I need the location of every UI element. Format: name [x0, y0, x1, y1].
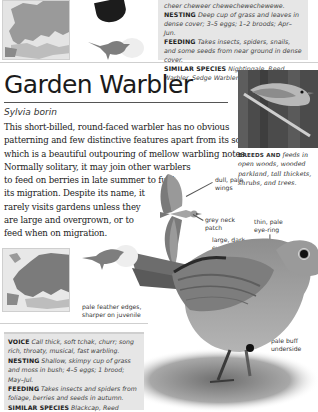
section-divider	[0, 62, 318, 63]
sex-symbol-icon	[246, 344, 254, 352]
title-underline	[4, 102, 228, 103]
bird-size-silhouette-icon	[86, 34, 146, 62]
europe-range-map-icon	[2, 248, 70, 312]
europe-range-map-icon	[2, 0, 70, 60]
latin-name: Sylvia borin	[4, 106, 57, 118]
previous-species-info-box: cheer cheweer chewechewechewewe. NESTING…	[158, 0, 308, 60]
description-line: patterning and few distinctive features …	[4, 134, 236, 147]
nesting-label: NESTING	[8, 357, 39, 364]
feeding-label: FEEDING	[8, 385, 39, 392]
label-wings: dull, pale wings	[215, 176, 255, 191]
nesting-label: NESTING	[164, 11, 196, 18]
species-info-box: VOICE Call thick, soft tchak, churr; son…	[4, 332, 144, 410]
feeding-label: FEEDING	[164, 38, 196, 45]
bird-wing-illustration	[94, 0, 128, 25]
voice-label: VOICE	[8, 338, 30, 345]
species-title: Garden Warbler	[4, 70, 192, 100]
bird-photo	[238, 70, 318, 148]
label-neck: grey neck patch	[205, 216, 245, 231]
description-line: This short-billed, round-faced warbler h…	[4, 121, 236, 134]
section-divider	[0, 323, 148, 324]
bird-size-silhouette-icon	[80, 244, 140, 272]
caption-key: BREEDS AND	[238, 152, 281, 158]
voice-text: cheer cheweer chewechewechewewe.	[164, 1, 302, 10]
similar-species-label: SIMILAR SPECIES	[8, 404, 69, 411]
description-line: which is a beautiful outpouring of mello…	[4, 148, 236, 161]
